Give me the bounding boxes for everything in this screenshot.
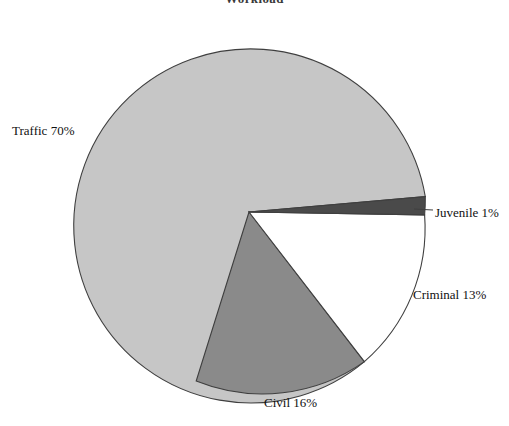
pie-label-traffic: Traffic 70% (12, 124, 74, 137)
pie-chart (0, 0, 509, 426)
pie-label-juvenile: Juvenile 1% (435, 206, 499, 219)
pie-label-criminal: Criminal 13% (413, 288, 486, 301)
pie-label-civil: Civil 16% (264, 396, 317, 409)
chart-canvas: Workload Traffic 70% Juvenile 1% Crimina… (0, 0, 509, 426)
